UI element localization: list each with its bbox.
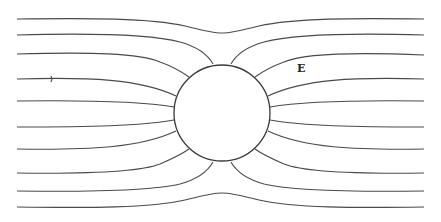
field-line-6-right (270, 120, 424, 127)
field-line-7-left (17, 131, 176, 149)
field-diagram (0, 0, 441, 222)
arrow-marker-icon (51, 76, 52, 82)
field-line-9-left (17, 162, 213, 191)
field-line-8-left (17, 149, 189, 173)
field-line-10 (17, 193, 424, 207)
field-line-3-left (17, 53, 189, 77)
field-line-5-left (17, 101, 174, 107)
field-line-5-right (270, 101, 424, 107)
field-line-2-right (231, 34, 424, 64)
conducting-sphere (174, 65, 270, 161)
field-label-e: E (297, 62, 305, 75)
field-line-9-right (231, 162, 424, 191)
field-line-8-right (255, 149, 424, 173)
field-line-2-left (17, 34, 213, 64)
field-line-3-right (255, 53, 424, 77)
field-line-4-right (268, 78, 424, 96)
field-line-4-left (17, 78, 176, 96)
field-line-6-left (17, 120, 174, 127)
field-line-1 (17, 19, 424, 33)
field-line-7-right (268, 131, 424, 149)
